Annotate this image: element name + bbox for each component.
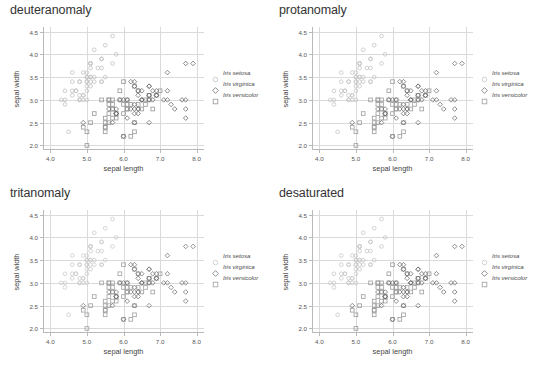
legend-item[interactable]: Iris versicolor [212, 273, 258, 281]
x-tick-mark [319, 333, 320, 336]
y-tick-label: 2.0 [289, 142, 307, 149]
legend-label: Iris versicolor [492, 274, 527, 281]
y-tick-mark [40, 260, 43, 261]
y-tick-mark [40, 54, 43, 55]
legend-marker-icon [481, 69, 488, 76]
y-tick-mark [309, 328, 312, 329]
y-tick-mark [40, 32, 43, 33]
y-tick-label: 2.5 [289, 302, 307, 309]
y-tick-mark [40, 237, 43, 238]
y-tick-label: 4.0 [289, 234, 307, 241]
x-tick-mark [160, 150, 161, 153]
legend-item[interactable]: Iris virginica [481, 79, 527, 87]
x-tick-mark [319, 150, 320, 153]
legend-item[interactable]: Iris setosa [481, 251, 527, 259]
legend-item[interactable]: Iris versicolor [481, 273, 527, 281]
legend-label: Iris setosa [492, 69, 519, 76]
legend-marker-icon [481, 252, 488, 259]
y-tick-mark [309, 283, 312, 284]
x-tick-mark [124, 150, 125, 153]
x-tick-mark [466, 333, 467, 336]
y-tick-label: 2.0 [20, 325, 38, 332]
y-tick-mark [40, 77, 43, 78]
chart-panel-desaturated: desaturated4.05.06.07.08.02.02.53.03.54.… [269, 183, 538, 366]
y-tick-mark [40, 215, 43, 216]
y-tick-label: 4.5 [289, 28, 307, 35]
y-tick-label: 3.0 [289, 279, 307, 286]
chart-panel-deuteranomaly: deuteranomaly4.05.06.07.08.02.02.53.03.5… [0, 0, 269, 183]
x-tick-mark [50, 333, 51, 336]
y-tick-label: 3.5 [289, 74, 307, 81]
legend-item[interactable]: Iris setosa [481, 68, 527, 76]
x-axis-label: sepal length [104, 164, 144, 173]
x-tick-label: 4.0 [46, 155, 55, 162]
legend-marker-icon [212, 69, 219, 76]
y-tick-mark [309, 237, 312, 238]
legend-label: Iris virginica [223, 263, 254, 270]
y-tick-label: 3.5 [20, 257, 38, 264]
y-tick-mark [40, 123, 43, 124]
x-tick-label: 5.0 [83, 155, 92, 162]
y-tick-label: 2.5 [20, 302, 38, 309]
x-axis-label: sepal length [373, 347, 413, 356]
legend-item[interactable]: Iris versicolor [481, 90, 527, 98]
y-tick-mark [309, 100, 312, 101]
y-tick-label: 4.0 [20, 51, 38, 58]
y-tick-label: 3.0 [20, 279, 38, 286]
y-tick-label: 4.5 [20, 28, 38, 35]
legend-marker-icon [212, 263, 219, 270]
x-tick-mark [87, 333, 88, 336]
y-tick-label: 2.5 [289, 119, 307, 126]
legend-item[interactable]: Iris versicolor [212, 90, 258, 98]
y-axis-label: sepal width [281, 253, 290, 290]
panel-grid: deuteranomaly4.05.06.07.08.02.02.53.03.5… [0, 0, 538, 366]
panel-title: tritanomaly [10, 186, 70, 200]
x-tick-mark [197, 333, 198, 336]
y-tick-mark [309, 260, 312, 261]
y-axis-line [312, 210, 313, 333]
scatter-points [312, 27, 473, 150]
panel-title: protanomaly [279, 3, 347, 17]
legend-item[interactable]: Iris setosa [212, 251, 258, 259]
plot-area [312, 27, 473, 150]
y-tick-mark [40, 145, 43, 146]
legend-item[interactable]: Iris setosa [212, 68, 258, 76]
panel-title: desaturated [279, 186, 344, 200]
y-tick-mark [309, 54, 312, 55]
y-tick-mark [309, 306, 312, 307]
y-tick-mark [40, 328, 43, 329]
y-axis-line [312, 27, 313, 150]
x-tick-label: 4.0 [46, 338, 55, 345]
scatter-points [43, 210, 204, 333]
legend-item[interactable]: Iris virginica [481, 262, 527, 270]
x-tick-label: 6.0 [388, 338, 397, 345]
legend-label: Iris virginica [492, 263, 523, 270]
legend-marker-icon [212, 91, 219, 98]
y-axis-line [43, 27, 44, 150]
x-tick-mark [356, 333, 357, 336]
legend-item[interactable]: Iris virginica [212, 262, 258, 270]
y-tick-label: 4.5 [20, 211, 38, 218]
y-tick-label: 2.5 [20, 119, 38, 126]
x-tick-mark [356, 150, 357, 153]
x-tick-mark [429, 150, 430, 153]
x-tick-mark [124, 333, 125, 336]
y-tick-mark [309, 77, 312, 78]
chart-panel-tritanomaly: tritanomaly4.05.06.07.08.02.02.53.03.54.… [0, 183, 269, 366]
legend-marker-icon [212, 274, 219, 281]
x-axis-label: sepal length [373, 164, 413, 173]
plot-area [43, 27, 204, 150]
x-tick-label: 6.0 [388, 155, 397, 162]
y-tick-label: 4.0 [289, 51, 307, 58]
y-axis-label: sepal width [281, 70, 290, 107]
legend: Iris setosaIris virginicaIris versicolor [481, 251, 527, 281]
legend-item[interactable]: Iris virginica [212, 79, 258, 87]
x-tick-label: 8.0 [192, 155, 201, 162]
y-tick-mark [40, 100, 43, 101]
y-tick-label: 3.5 [20, 74, 38, 81]
legend-label: Iris setosa [223, 69, 250, 76]
legend-marker-icon [481, 263, 488, 270]
legend-marker-icon [481, 274, 488, 281]
y-tick-mark [309, 32, 312, 33]
legend-marker-icon [481, 91, 488, 98]
